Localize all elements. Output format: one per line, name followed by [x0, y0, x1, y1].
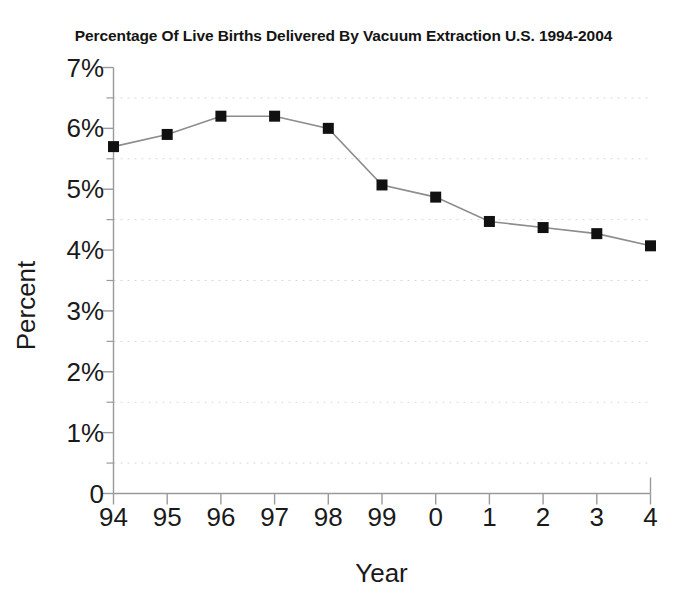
y-tick-label: 4%: [44, 237, 104, 263]
y-tick-label: 6%: [44, 115, 104, 141]
x-tick-label: 1: [461, 503, 517, 531]
x-tick-label: 4: [623, 503, 679, 531]
y-tick-label: 2%: [44, 359, 104, 385]
data-point-marker: [591, 228, 602, 239]
data-point-marker: [162, 129, 173, 140]
data-point-marker: [538, 222, 549, 233]
data-point-marker: [108, 141, 119, 152]
x-tick-label: 94: [86, 503, 142, 531]
data-point-marker: [430, 192, 441, 203]
x-tick-label: 0: [408, 503, 464, 531]
y-tick-label: 3%: [44, 298, 104, 324]
data-series-markers: [108, 111, 656, 252]
data-point-marker: [215, 111, 226, 122]
x-axis-title: Year: [113, 558, 650, 589]
x-tick-label: 96: [193, 503, 249, 531]
y-axis-ticks: [103, 68, 114, 494]
x-tick-label: 95: [139, 503, 195, 531]
data-point-marker: [269, 111, 280, 122]
x-tick-label: 3: [569, 503, 625, 531]
x-tick-label: 97: [247, 503, 303, 531]
y-tick-label: 7%: [44, 55, 104, 81]
minor-gridlines: [114, 98, 651, 463]
chart-container: Percentage Of Live Births Delivered By V…: [0, 0, 687, 610]
data-point-marker: [484, 216, 495, 227]
data-point-marker: [377, 179, 388, 190]
x-tick-label: 99: [354, 503, 410, 531]
x-tick-label: 2: [515, 503, 571, 531]
data-point-marker: [645, 240, 656, 251]
data-point-marker: [323, 123, 334, 134]
y-tick-label: 1%: [44, 420, 104, 446]
y-tick-label: 5%: [44, 176, 104, 202]
x-tick-label: 98: [300, 503, 356, 531]
y-axis-title: Percent: [11, 246, 42, 366]
